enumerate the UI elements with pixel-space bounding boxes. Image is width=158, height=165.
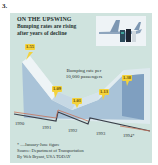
year-label-1994: 1994* [123, 133, 134, 138]
value-label-1990: 1.55 [25, 44, 35, 50]
footnote-asterisk: * —January-June figure [17, 142, 59, 147]
footnote-credit: By Web Bryant, USA TODAY [17, 154, 71, 159]
value-label-1993: 1.13 [99, 89, 109, 95]
year-label-1991: 1991 [42, 125, 51, 130]
year-label-1993: 1993 [96, 131, 105, 136]
value-label-1994: 1.38 [122, 75, 132, 81]
value-label-1991: 1.09 [52, 86, 62, 92]
chart-caption: Bumping rate per 10,000 passengers [60, 68, 108, 80]
value-label-1992: 1.01 [72, 98, 82, 104]
footnote-source: Source: Department of Transportation [17, 148, 84, 153]
year-label-1992: 1992 [68, 128, 77, 133]
year-label-1990: 1990 [15, 121, 24, 126]
bumping-rate-chart [0, 0, 158, 165]
